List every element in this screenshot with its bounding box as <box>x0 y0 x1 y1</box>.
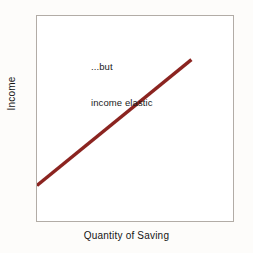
y-axis-label: Income <box>6 44 17 144</box>
annotation-line-2: income elastic <box>91 97 153 109</box>
plot-frame: ...but income elastic <box>36 15 234 222</box>
chart-annotation: ...but income elastic <box>91 37 153 133</box>
annotation-line-1: ...but <box>91 61 153 73</box>
chart-figure: ...but income elastic Income Quantity of… <box>0 0 253 253</box>
x-axis-label: Quantity of Saving <box>0 230 253 241</box>
